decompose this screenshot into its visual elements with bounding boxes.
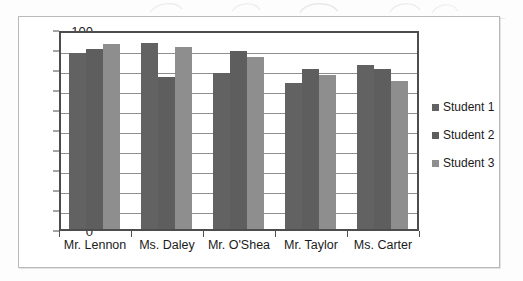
x-axis-tick-mark <box>419 231 420 237</box>
legend-item[interactable]: Student 3 <box>432 157 498 169</box>
legend-item-label: Student 1 <box>443 101 494 113</box>
legend-item-label: Student 2 <box>443 129 494 141</box>
chart-legend: Student 1Student 2Student 3 <box>432 101 498 185</box>
x-axis-category-label: Mr. Lennon <box>59 239 131 252</box>
bar-group <box>285 33 336 229</box>
bar[interactable] <box>175 47 192 229</box>
plot-wrapper: 0102030405060708090100 Mr. LennonMs. Dal… <box>19 17 501 269</box>
bar[interactable] <box>213 73 230 229</box>
legend-swatch-icon <box>432 160 439 167</box>
bar[interactable] <box>230 51 247 229</box>
x-axis-category-label: Ms. Daley <box>131 239 203 252</box>
legend-swatch-icon <box>432 132 439 139</box>
x-axis-category-label: Ms. Carter <box>347 239 419 252</box>
bar[interactable] <box>374 69 391 229</box>
bar[interactable] <box>247 57 264 229</box>
x-axis-tick-mark <box>131 231 132 237</box>
legend-item[interactable]: Student 2 <box>432 129 498 141</box>
legend-item[interactable]: Student 1 <box>432 101 498 113</box>
bar-group <box>213 33 264 229</box>
x-axis-tick-mark <box>275 231 276 237</box>
bar[interactable] <box>69 53 86 229</box>
bar[interactable] <box>158 77 175 229</box>
x-axis-tick-mark <box>203 231 204 237</box>
x-axis-tick-mark <box>59 231 60 237</box>
bar[interactable] <box>285 83 302 229</box>
plot-area <box>59 31 419 231</box>
bar[interactable] <box>319 75 336 229</box>
bar[interactable] <box>357 65 374 229</box>
legend-swatch-icon <box>432 104 439 111</box>
bar-group <box>357 33 408 229</box>
bar-group <box>141 33 192 229</box>
x-axis-category-label: Mr. O'Shea <box>203 239 275 252</box>
bar[interactable] <box>391 81 408 229</box>
x-axis-tick-mark <box>347 231 348 237</box>
bar[interactable] <box>86 49 103 229</box>
bar[interactable] <box>103 44 120 229</box>
legend-item-label: Student 3 <box>443 157 494 169</box>
bar[interactable] <box>141 43 158 229</box>
chart-container: 0102030405060708090100 Mr. LennonMs. Dal… <box>18 16 500 268</box>
bar[interactable] <box>302 69 319 229</box>
bar-group <box>69 33 120 229</box>
x-axis-category-label: Mr. Taylor <box>275 239 347 252</box>
